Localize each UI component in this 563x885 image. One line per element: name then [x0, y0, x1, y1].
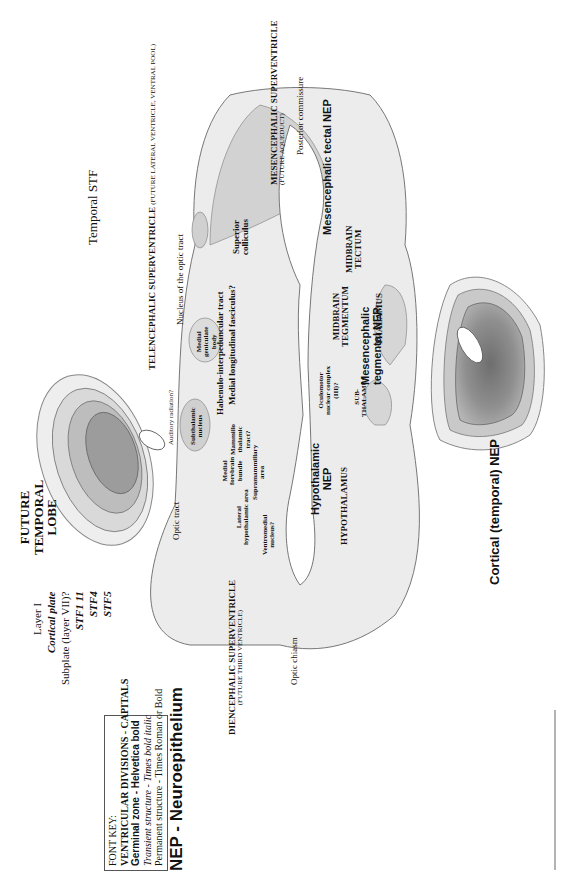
oculomotor-line-3: (III)? — [333, 366, 340, 415]
mesencephalic-superventricle-note: (FUTURE AQUEDUCT) — [279, 21, 286, 185]
oculomotor-complex-label: Oculomotor nuclear complex (III)? — [318, 366, 340, 415]
cortical-temporal-nep-label: Cortical (temporal) NEP — [488, 439, 502, 585]
stf1-11-label: STF1 11 — [74, 591, 86, 630]
mammillothalamic-tract-label: Mammillo thalamic tract? — [230, 424, 252, 455]
auditory-radiation-label: Auditory radiation? — [168, 390, 175, 445]
font-key-line-permanent: Permanent structure - Times Roman or Bol… — [153, 720, 165, 866]
lateral-hypothalamic-line-2: hypothalamic area — [243, 489, 250, 545]
future-temporal-lobe-line-3: LOBE — [45, 480, 59, 555]
nucleus-optic-tract-label: Nucleus of the optic tract — [176, 234, 185, 325]
layer-i-label: Layer I — [32, 603, 44, 635]
medial-geniculate-body-label: Medial geniculate body — [196, 327, 218, 357]
subthalamic-nucleus-label: Subthalamic nucleus — [190, 407, 205, 445]
future-temporal-lobe-label: FUTURE TEMPORAL LOBE — [18, 480, 59, 555]
hypothalamic-nep-label: Hypothalamic NEP — [310, 443, 333, 515]
superior-colliculus-label: Superior colliculus — [232, 219, 251, 255]
mesencephalic-tectal-nep-label: Mesencephalic tectal NEP — [322, 99, 334, 235]
diagram-page: FONT KEY: VENTRICULAR DIVISIONS - CAPITA… — [0, 0, 563, 885]
telencephalic-superventricle-label: TELENCEPHALIC SUPERVENTRICLE (FUTURE LAT… — [148, 44, 157, 370]
hypothalamic-nep-line-1: Hypothalamic — [310, 443, 322, 515]
font-key-line-capitals: VENTRICULAR DIVISIONS - CAPITALS — [119, 720, 131, 866]
font-key-title: FONT KEY: — [107, 720, 119, 866]
cortical-temporal-section — [431, 277, 544, 450]
subplate-label: Subplate (layer VII)? — [60, 592, 72, 685]
legend-title: NEP - Neuroepithelium — [168, 687, 186, 871]
subthalamus-line-2: THALAMUS — [361, 377, 368, 417]
diencephalic-superventricle-note: (FUTURE THIRD VENTRICLE) — [237, 580, 244, 735]
supramammillary-line-2: area — [259, 445, 266, 500]
subthalamic-nucleus-line-2: nucleus — [197, 407, 204, 445]
font-key-line-germinal: Germinal zone - Helvetica bold — [130, 720, 142, 866]
stf5-label: STF5 — [102, 591, 114, 617]
optic-tract-label: Optic tract — [172, 502, 181, 540]
medial-longitudinal-fasciculus-label: Medial longitudinal fasciculus? — [228, 285, 237, 405]
hypothalamus-label: HYPOTHALAMUS — [340, 467, 349, 545]
font-key-line-transient: Transient structure - Times bold italic — [142, 720, 154, 866]
stf4-label: STF4 — [88, 591, 100, 617]
medial-forebrain-bundle-line-3: bundle — [237, 457, 244, 485]
ventromedial-line-2: nucleus? — [269, 515, 276, 555]
lateral-hypothalamic-area-label: Lateral hypothalamic area — [236, 489, 251, 545]
diencephalic-superventricle-label: DIENCEPHALIC SUPERVENTRICLE (FUTURE THIR… — [228, 580, 245, 735]
font-key-box: FONT KEY: VENTRICULAR DIVISIONS - CAPITA… — [104, 715, 168, 871]
posterior-commissure-label: Posterior commissure — [296, 77, 305, 155]
mesencephalic-tegmental-nep-line-1: Mesencephalic — [360, 307, 372, 385]
midbrain-tegmentum-label: MIDBRAIN TEGMENTUM — [332, 286, 351, 347]
medial-forebrain-bundle-label: Medial forebrain bundle — [222, 457, 244, 485]
midbrain-tectum-label: MIDBRAIN TECTUM — [345, 225, 364, 273]
midbrain-tegmentum-line-2: TEGMENTUM — [341, 286, 350, 347]
temporal-stf-label: Temporal STF — [86, 170, 100, 245]
medial-geniculate-body-line-3: body — [211, 327, 218, 357]
future-temporal-lobe-line-1: FUTURE — [18, 480, 32, 555]
mesencephalic-superventricle-label: MESENCEPHALIC SUPERVENTRICLE (FUTURE AQU… — [270, 21, 287, 185]
superior-colliculus-line-2: colliculus — [241, 219, 250, 255]
telencephalic-superventricle-text: TELENCEPHALIC SUPERVENTRICLE — [147, 207, 157, 370]
cortical-plate-label: Cortical plate — [46, 592, 58, 653]
thalamus-label: THALAMUS — [375, 293, 384, 345]
telencephalic-superventricle-note: (FUTURE LATERAL VENTRICLE, VENTRAL POOL) — [149, 44, 157, 205]
midbrain-tectum-line-2: TECTUM — [354, 225, 363, 273]
subthalamus-label: SUB- THALAMUS — [354, 377, 369, 417]
ventromedial-nucleus-label: Ventromedial nucleus? — [262, 515, 277, 555]
supramammillary-area-label: Supramammillary area — [252, 445, 267, 500]
hypothalamic-nep-line-2: NEP — [322, 443, 334, 515]
future-temporal-lobe-line-2: TEMPORAL — [32, 480, 46, 555]
optic-chiasm-label: Optic chiasm — [290, 637, 299, 685]
